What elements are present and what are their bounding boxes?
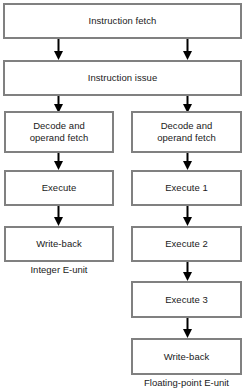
node-instruction-issue-label: Instruction issue xyxy=(88,72,158,84)
arrow-fp-decode-to-execute-1 xyxy=(183,153,192,170)
node-int-decode: Decode and operand fetch xyxy=(4,111,114,153)
node-instruction-fetch: Instruction fetch xyxy=(3,3,242,39)
node-fp-write-back-label: Write-back xyxy=(164,351,210,363)
node-fp-execute-1-label: Execute 1 xyxy=(165,182,208,194)
caption-floating-point-e-unit: Floating-point E-unit xyxy=(131,377,242,389)
node-int-write-back-label: Write-back xyxy=(36,238,82,250)
arrow-fp-execute-1-to-2 xyxy=(183,206,192,226)
arrow-fetch-to-issue-left xyxy=(54,39,63,60)
node-fp-execute-3: Execute 3 xyxy=(131,281,242,318)
arrow-int-execute-to-write-back xyxy=(54,206,63,226)
arrow-fp-execute-3-to-write-back xyxy=(183,318,192,338)
caption-integer-e-unit: Integer E-unit xyxy=(4,264,114,276)
node-fp-execute-3-label: Execute 3 xyxy=(165,294,208,306)
node-fp-decode: Decode and operand fetch xyxy=(131,111,242,153)
node-fp-write-back: Write-back xyxy=(131,338,242,375)
arrow-fetch-to-issue-right xyxy=(183,39,192,60)
node-fp-execute-2-label: Execute 2 xyxy=(165,238,208,250)
node-fp-execute-1: Execute 1 xyxy=(131,170,242,206)
node-int-write-back: Write-back xyxy=(4,226,114,262)
node-int-execute: Execute xyxy=(4,170,114,206)
arrow-fp-execute-2-to-3 xyxy=(183,262,192,281)
node-instruction-fetch-label: Instruction fetch xyxy=(89,15,157,27)
caption-integer-e-unit-label: Integer E-unit xyxy=(30,264,87,275)
node-instruction-issue: Instruction issue xyxy=(3,60,242,96)
node-int-execute-label: Execute xyxy=(42,182,77,194)
caption-floating-point-e-unit-label: Floating-point E-unit xyxy=(144,377,229,388)
node-fp-decode-label: Decode and operand fetch xyxy=(157,120,216,144)
arrow-int-decode-to-execute xyxy=(54,153,63,170)
node-fp-execute-2: Execute 2 xyxy=(131,226,242,262)
node-int-decode-label: Decode and operand fetch xyxy=(30,120,89,144)
pipeline-diagram: Instruction fetch Instruction issue Deco… xyxy=(0,0,245,389)
